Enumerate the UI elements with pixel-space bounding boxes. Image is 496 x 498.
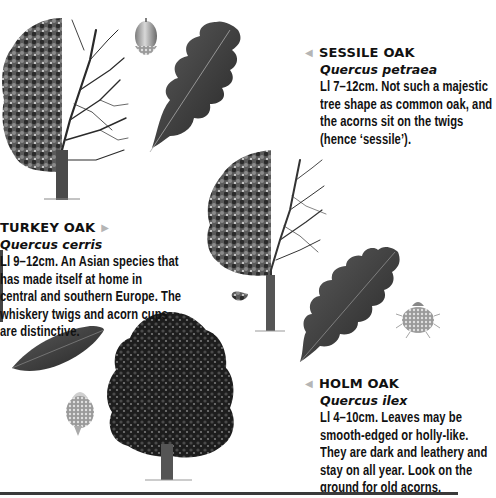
entry-sessile-oak: ◀ SESSILE OAK Quercus petraea Ll 7–12cm.… — [305, 44, 496, 148]
sessile-oak-tree — [2, 18, 128, 200]
sessile-oak-leaf — [150, 21, 240, 152]
page-footer-rule — [0, 492, 458, 495]
holm-oak-acorn — [66, 392, 94, 436]
description: Ll 7–12cm. Not such a majestic tree shap… — [320, 78, 496, 148]
common-name: TURKEY OAK — [0, 219, 95, 236]
turkey-oak-leaf — [300, 247, 400, 362]
turkey-oak-acorn-cup — [396, 302, 440, 338]
entry-turkey-oak: TURKEY OAK ▶ Quercus cerris Ll 9–12cm. A… — [0, 219, 227, 341]
entry-heading: ◀ HOLM OAK — [305, 375, 496, 392]
entry-heading: ◀ SESSILE OAK — [305, 44, 496, 61]
description: Ll 4–10cm. Leaves may be smooth-edged or… — [320, 409, 496, 497]
latin-name: Quercus cerris — [0, 236, 227, 253]
latin-name: Quercus petraea — [305, 61, 496, 78]
right-triangle-icon: ▶ — [101, 219, 109, 236]
description: Ll 9–12cm. An Asian species that has mad… — [0, 253, 182, 341]
entry-holm-oak: ◀ HOLM OAK Quercus ilex Ll 4–10cm. Leave… — [305, 375, 496, 497]
left-triangle-icon: ◀ — [305, 375, 313, 392]
common-name: HOLM OAK — [319, 375, 399, 392]
common-name: SESSILE OAK — [319, 44, 415, 61]
sessile-oak-acorn — [135, 18, 157, 55]
entry-heading: TURKEY OAK ▶ — [0, 219, 227, 236]
latin-name: Quercus ilex — [305, 392, 496, 409]
left-triangle-icon: ◀ — [305, 44, 313, 61]
